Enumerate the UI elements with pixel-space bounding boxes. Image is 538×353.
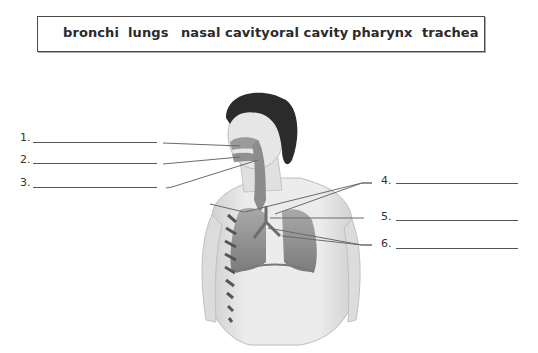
answer-blank-5[interactable] <box>396 220 518 221</box>
label-number-3: 3. <box>20 176 31 189</box>
answer-blank-6[interactable] <box>396 248 518 249</box>
answer-blank-1[interactable] <box>33 142 157 143</box>
answer-blank-4[interactable] <box>396 183 518 184</box>
answer-blank-3[interactable] <box>33 187 157 188</box>
answer-blank-2[interactable] <box>33 163 157 164</box>
label-number-4: 4. <box>381 174 392 187</box>
label-number-5: 5. <box>381 210 392 223</box>
respiratory-illustration <box>0 0 538 353</box>
label-number-2: 2. <box>20 153 31 166</box>
label-number-1: 1. <box>20 131 31 144</box>
label-number-6: 6. <box>381 237 392 250</box>
